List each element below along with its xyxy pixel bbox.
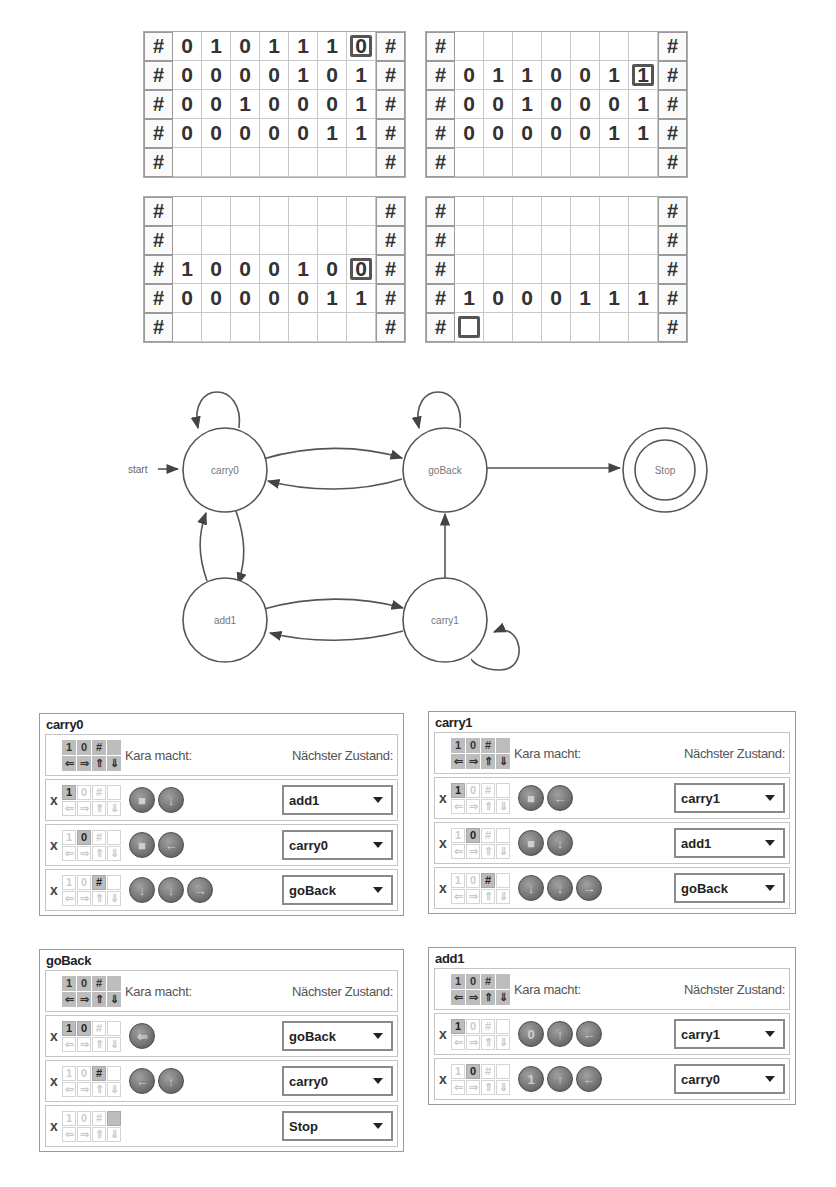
action-icon[interactable]: → [576,875,602,901]
next-state-dropdown[interactable]: carry0 [674,1064,785,1094]
sensor-top-2[interactable]: # [481,1064,495,1079]
sensor-direction-3[interactable]: ⇓ [107,1082,121,1097]
action-icon[interactable]: 0 [518,1021,544,1047]
sensor-grid[interactable]: 10#⇐⇒⇑⇓ [62,1111,121,1142]
sensor-top-1[interactable]: 0 [77,1021,91,1036]
sensor-direction-2[interactable]: ⇑ [92,801,106,816]
action-icon[interactable]: ↓ [547,875,573,901]
next-state-dropdown[interactable]: goBack [282,875,393,905]
sensor-top-0[interactable]: 1 [62,1066,76,1081]
sensor-top-3[interactable] [496,1019,510,1034]
sensor-direction-1[interactable]: ⇒ [77,891,91,906]
sensor-direction-3[interactable]: ⇓ [496,1080,510,1095]
sensor-direction-0[interactable]: ⇐ [62,1037,76,1052]
sensor-grid[interactable]: 10#⇐⇒⇑⇓ [62,1021,121,1052]
delete-transition-button[interactable]: x [435,880,451,896]
state-node-carry1[interactable]: carry1 [403,578,487,662]
action-icon[interactable]: ■ [518,830,544,856]
delete-transition-button[interactable]: x [46,1028,62,1044]
sensor-top-0[interactable]: 1 [451,828,465,843]
state-node-add1[interactable]: add1 [183,578,267,662]
sensor-direction-2[interactable]: ⇑ [481,844,495,859]
sensor-grid[interactable]: 10#⇐⇒⇑⇓ [451,1019,510,1050]
delete-transition-button[interactable]: x [435,1071,451,1087]
sensor-direction-2[interactable]: ⇑ [481,889,495,904]
sensor-top-1[interactable]: 0 [77,1066,91,1081]
sensor-direction-0[interactable]: ⇐ [62,801,76,816]
sensor-direction-3[interactable]: ⇓ [107,801,121,816]
delete-transition-button[interactable]: x [46,1118,62,1134]
action-icon[interactable]: ↓ [547,830,573,856]
sensor-top-3[interactable] [496,873,510,888]
action-icon[interactable]: ■ [129,787,155,813]
action-icon[interactable]: ↑ [547,1066,573,1092]
sensor-top-0[interactable]: 1 [451,873,465,888]
sensor-top-0[interactable]: 1 [451,783,465,798]
sensor-top-3[interactable] [107,785,121,800]
sensor-grid[interactable]: 10#⇐⇒⇑⇓ [451,873,510,904]
action-icon[interactable]: ↑ [547,1021,573,1047]
sensor-top-0[interactable]: 1 [451,1019,465,1034]
sensor-direction-1[interactable]: ⇒ [466,844,480,859]
action-icon[interactable]: ■ [518,785,544,811]
sensor-direction-3[interactable]: ⇓ [496,799,510,814]
sensor-direction-2[interactable]: ⇑ [92,1082,106,1097]
action-icon[interactable]: ← [576,1066,602,1092]
sensor-direction-2[interactable]: ⇑ [92,891,106,906]
sensor-top-3[interactable] [107,830,121,845]
next-state-dropdown[interactable]: carry0 [282,1066,393,1096]
delete-transition-button[interactable]: x [435,790,451,806]
sensor-top-3[interactable] [107,1111,121,1126]
state-node-Stop[interactable]: Stop [623,428,707,512]
delete-transition-button[interactable]: x [46,837,62,853]
next-state-dropdown[interactable]: carry1 [674,1019,785,1049]
sensor-top-0[interactable]: 1 [62,830,76,845]
action-icon[interactable]: → [187,877,213,903]
sensor-direction-0[interactable]: ⇐ [451,799,465,814]
sensor-direction-3[interactable]: ⇓ [496,1035,510,1050]
sensor-direction-3[interactable]: ⇓ [496,889,510,904]
sensor-direction-0[interactable]: ⇐ [62,1127,76,1142]
sensor-direction-1[interactable]: ⇒ [466,1080,480,1095]
action-icon[interactable]: ↓ [158,787,184,813]
sensor-top-1[interactable]: 0 [466,873,480,888]
sensor-top-2[interactable]: # [481,828,495,843]
sensor-direction-1[interactable]: ⇒ [466,1035,480,1050]
sensor-top-1[interactable]: 0 [77,1111,91,1126]
action-icon[interactable]: ← [547,785,573,811]
sensor-direction-1[interactable]: ⇒ [77,1127,91,1142]
sensor-top-1[interactable]: 0 [77,830,91,845]
delete-transition-button[interactable]: x [46,792,62,808]
delete-transition-button[interactable]: x [435,1026,451,1042]
delete-transition-button[interactable]: x [435,835,451,851]
sensor-direction-1[interactable]: ⇒ [466,889,480,904]
sensor-direction-0[interactable]: ⇐ [451,1080,465,1095]
action-icon[interactable]: ← [576,1021,602,1047]
sensor-direction-0[interactable]: ⇐ [451,844,465,859]
sensor-grid[interactable]: 10#⇐⇒⇑⇓ [62,785,121,816]
sensor-top-0[interactable]: 1 [62,785,76,800]
action-icon[interactable]: 1 [518,1066,544,1092]
action-icon[interactable]: ↓ [158,877,184,903]
sensor-top-0[interactable]: 1 [62,875,76,890]
action-icon[interactable]: ↓ [129,877,155,903]
sensor-direction-2[interactable]: ⇑ [92,846,106,861]
sensor-direction-1[interactable]: ⇒ [466,799,480,814]
delete-transition-button[interactable]: x [46,1073,62,1089]
delete-transition-button[interactable]: x [46,882,62,898]
action-icon[interactable]: ← [158,832,184,858]
sensor-grid[interactable]: 10#⇐⇒⇑⇓ [451,1064,510,1095]
sensor-direction-0[interactable]: ⇐ [451,1035,465,1050]
sensor-top-3[interactable] [107,1021,121,1036]
sensor-direction-1[interactable]: ⇒ [77,801,91,816]
sensor-top-1[interactable]: 0 [77,785,91,800]
sensor-top-1[interactable]: 0 [466,783,480,798]
state-node-goBack[interactable]: goBack [403,428,487,512]
next-state-dropdown[interactable]: goBack [282,1021,393,1051]
sensor-top-3[interactable] [496,783,510,798]
action-icon[interactable]: ↑ [158,1068,184,1094]
sensor-top-1[interactable]: 0 [77,875,91,890]
sensor-top-0[interactable]: 1 [451,1064,465,1079]
sensor-direction-2[interactable]: ⇑ [92,1127,106,1142]
sensor-direction-1[interactable]: ⇒ [77,1082,91,1097]
